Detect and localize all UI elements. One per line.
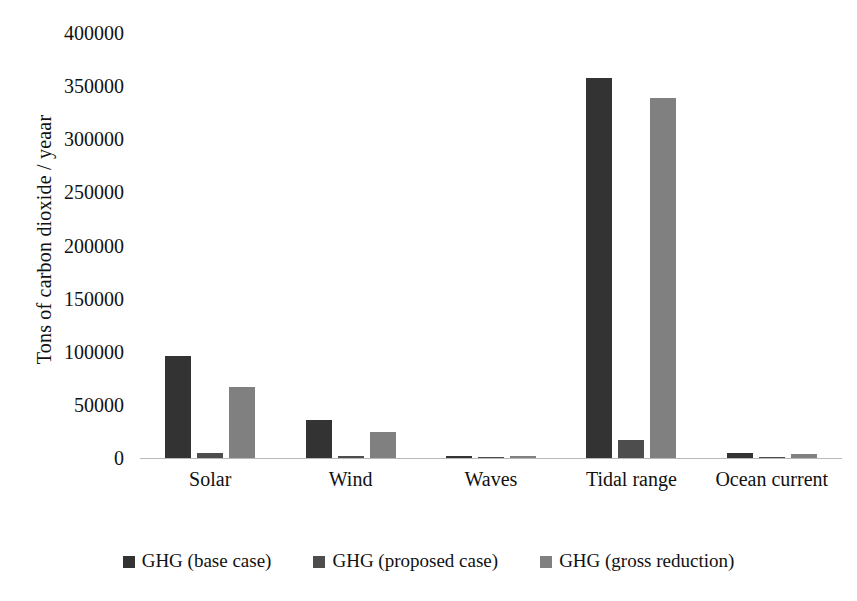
legend-swatch-icon xyxy=(540,556,552,568)
legend-item[interactable]: GHG (proposed case) xyxy=(313,550,498,572)
bar xyxy=(586,78,612,458)
bar-group xyxy=(702,33,842,458)
legend-label: GHG (gross reduction) xyxy=(559,550,734,572)
y-tick-label: 400000 xyxy=(0,23,132,43)
legend-item[interactable]: GHG (base case) xyxy=(123,550,272,572)
bar-group xyxy=(421,33,561,458)
y-tick-label: 50000 xyxy=(0,395,132,415)
bar-group xyxy=(561,33,701,458)
legend-swatch-icon xyxy=(313,556,325,568)
bar xyxy=(370,432,396,458)
x-tick-label: Tidal range xyxy=(561,466,701,493)
bar-group xyxy=(140,33,280,458)
bar xyxy=(759,457,785,459)
bar xyxy=(446,456,472,458)
legend-label: GHG (proposed case) xyxy=(332,550,498,572)
bar xyxy=(478,457,504,459)
bar xyxy=(229,387,255,458)
bar xyxy=(338,456,364,458)
y-tick-label: 100000 xyxy=(0,342,132,362)
y-axis-tick-labels: 0500001000001500002000002500003000003500… xyxy=(0,0,132,601)
x-tick-label: Waves xyxy=(421,466,561,493)
y-tick-label: 200000 xyxy=(0,236,132,256)
bar xyxy=(306,420,332,458)
y-tick-label: 250000 xyxy=(0,182,132,202)
x-axis-category-labels: SolarWindWavesTidal rangeOcean current xyxy=(140,466,842,536)
y-tick-label: 0 xyxy=(0,448,132,468)
legend-item[interactable]: GHG (gross reduction) xyxy=(540,550,734,572)
x-tick-label: Ocean current xyxy=(702,466,842,493)
bar xyxy=(791,454,817,458)
bar xyxy=(618,440,644,458)
bar xyxy=(510,456,536,458)
y-tick-label: 350000 xyxy=(0,76,132,96)
y-tick-label: 300000 xyxy=(0,129,132,149)
bar xyxy=(650,98,676,458)
plot-area xyxy=(140,33,842,458)
x-tick-label: Solar xyxy=(140,466,280,493)
y-tick-label: 150000 xyxy=(0,289,132,309)
bar xyxy=(727,453,753,458)
legend-label: GHG (base case) xyxy=(142,550,272,572)
bar xyxy=(197,453,223,458)
legend-swatch-icon xyxy=(123,556,135,568)
x-axis-line xyxy=(140,458,842,459)
chart-legend: GHG (base case)GHG (proposed case)GHG (g… xyxy=(0,550,857,572)
bar-chart: Tons of carbon dioxide / yeaar 050000100… xyxy=(0,0,857,601)
x-tick-label: Wind xyxy=(280,466,420,493)
bar-group xyxy=(280,33,420,458)
bar xyxy=(165,356,191,458)
